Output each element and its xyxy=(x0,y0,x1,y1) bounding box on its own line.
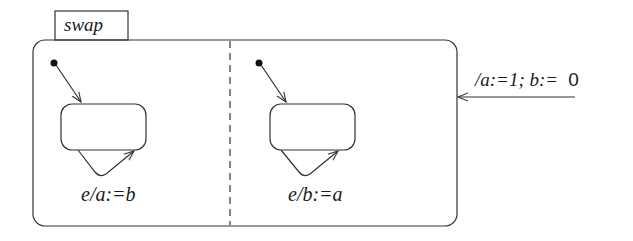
superstate-name: swap xyxy=(64,14,103,35)
self-transition-label: e/a:=b xyxy=(81,183,136,205)
region-left: e/a:=b xyxy=(51,60,147,206)
self-transition-loop xyxy=(78,150,134,176)
self-transition-loop xyxy=(281,150,338,176)
state-box xyxy=(61,104,146,150)
entry-action-value: 0 xyxy=(568,69,579,90)
entry-action-text: /a:=1; b:= xyxy=(474,69,558,90)
self-transition-label: e/b:=a xyxy=(288,183,343,205)
state-box xyxy=(270,104,355,150)
initial-transition-arrow xyxy=(261,65,286,102)
initial-transition-arrow xyxy=(56,65,81,102)
statechart-diagram: swap e/a:=b e/b:=a /a:=1; b:=0 xyxy=(0,0,633,241)
entry-transition-label: /a:=1; b:=0 xyxy=(474,69,579,90)
superstate-name-tab: swap xyxy=(55,11,128,40)
region-right: e/b:=a xyxy=(256,60,356,206)
entry-transition: /a:=1; b:=0 xyxy=(458,69,579,97)
